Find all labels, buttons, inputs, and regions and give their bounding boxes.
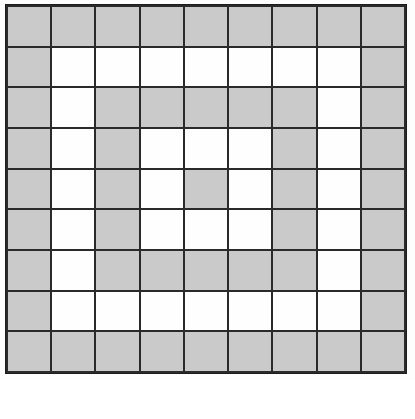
grid-cell xyxy=(8,129,50,168)
grid-cell xyxy=(185,7,227,46)
grid-cell xyxy=(229,210,271,249)
grid-cell xyxy=(8,292,50,331)
grid-cell xyxy=(185,210,227,249)
grid-cell xyxy=(362,170,404,209)
grid-cell xyxy=(141,210,183,249)
grid-cell xyxy=(362,129,404,168)
grid-cell xyxy=(96,210,138,249)
grid-cell xyxy=(96,251,138,290)
grid-cell xyxy=(229,7,271,46)
grid-cell xyxy=(318,7,360,46)
grid-cell xyxy=(8,7,50,46)
grid-cell xyxy=(318,129,360,168)
grid-cell xyxy=(96,7,138,46)
grid-cell xyxy=(141,88,183,127)
grid-cell xyxy=(96,170,138,209)
grid-cell xyxy=(229,251,271,290)
grid-cell xyxy=(52,292,94,331)
grid-cell xyxy=(318,210,360,249)
grid-cell xyxy=(8,251,50,290)
grid-cell xyxy=(229,292,271,331)
grid-cell xyxy=(362,332,404,371)
grid-cell xyxy=(229,129,271,168)
grid-cell xyxy=(52,7,94,46)
grid-cell xyxy=(229,48,271,87)
grid-cell xyxy=(8,88,50,127)
grid-cell xyxy=(362,251,404,290)
grid-cell xyxy=(273,210,315,249)
grid-cell xyxy=(273,48,315,87)
grid-cell xyxy=(141,292,183,331)
grid-cell xyxy=(185,251,227,290)
grid-cell xyxy=(273,292,315,331)
grid-cell xyxy=(52,170,94,209)
grid-cell xyxy=(8,170,50,209)
grid-cell xyxy=(229,332,271,371)
grid-cell xyxy=(8,48,50,87)
grid-cell xyxy=(362,48,404,87)
grid-cell xyxy=(273,88,315,127)
figure-root xyxy=(0,0,415,419)
grid-cell xyxy=(273,129,315,168)
grid-cell xyxy=(318,170,360,209)
grid-cell xyxy=(96,88,138,127)
grid-cell xyxy=(273,251,315,290)
grid-cell xyxy=(318,88,360,127)
grid-cell xyxy=(318,292,360,331)
cell-grid xyxy=(5,4,407,374)
grid-cell xyxy=(273,7,315,46)
caption-strip xyxy=(0,380,415,419)
grid-cell xyxy=(52,88,94,127)
grid-cell xyxy=(229,88,271,127)
grid-cell xyxy=(362,7,404,46)
grid-cell xyxy=(52,129,94,168)
grid-cell xyxy=(318,332,360,371)
grid-container xyxy=(5,4,407,374)
grid-cell xyxy=(141,251,183,290)
grid-cell xyxy=(52,251,94,290)
grid-cell xyxy=(185,129,227,168)
grid-cell xyxy=(141,332,183,371)
grid-cell xyxy=(8,210,50,249)
grid-cell xyxy=(318,48,360,87)
grid-cell xyxy=(318,251,360,290)
grid-cell xyxy=(52,48,94,87)
grid-cell xyxy=(52,332,94,371)
grid-cell xyxy=(185,332,227,371)
grid-cell xyxy=(273,170,315,209)
grid-cell xyxy=(362,88,404,127)
grid-cell xyxy=(273,332,315,371)
grid-cell xyxy=(96,48,138,87)
grid-cell xyxy=(229,170,271,209)
grid-cell xyxy=(96,129,138,168)
grid-cell xyxy=(96,332,138,371)
grid-cell xyxy=(185,88,227,127)
grid-cell xyxy=(8,332,50,371)
grid-cell xyxy=(52,210,94,249)
grid-cell xyxy=(362,210,404,249)
grid-cell xyxy=(185,48,227,87)
grid-cell xyxy=(141,48,183,87)
grid-cell xyxy=(141,7,183,46)
grid-cell xyxy=(362,292,404,331)
grid-cell xyxy=(141,129,183,168)
grid-cell xyxy=(185,292,227,331)
grid-cell xyxy=(141,170,183,209)
grid-cell xyxy=(185,170,227,209)
grid-cell xyxy=(96,292,138,331)
